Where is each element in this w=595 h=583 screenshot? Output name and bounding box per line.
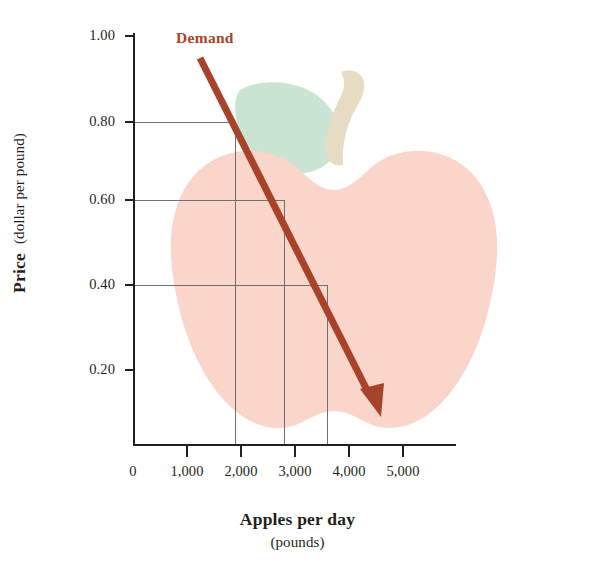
x-tick-label-5000: 5,000	[358, 463, 448, 480]
y-axis-title-subtitle: (dollar per pound)	[11, 133, 28, 244]
y-tick-label-100: 1.00	[55, 27, 115, 44]
demand-curve-figure: 1.00 0.80 0.60 0.40 0.20 0 1,000 2,000 3…	[0, 0, 595, 583]
x-axis-title: Apples per day (pounds)	[0, 508, 595, 552]
x-axis-title-main: Apples per day	[0, 508, 595, 532]
y-tick-label-080: 0.80	[55, 113, 115, 130]
x-axis-ticks	[187, 446, 403, 457]
x-axis-title-subtitle: (pounds)	[0, 532, 595, 552]
demand-curve-label: Demand	[176, 29, 234, 47]
y-axis-ticks	[125, 36, 134, 370]
y-axis-title: Price (dollar per pound)	[9, 133, 59, 293]
y-tick-label-060: 0.60	[55, 191, 115, 208]
y-tick-label-020: 0.20	[55, 361, 115, 378]
y-tick-label-040: 0.40	[55, 276, 115, 293]
y-axis-title-main: Price	[9, 253, 30, 293]
apple-illustration	[171, 70, 497, 428]
apple-stem-icon	[326, 70, 364, 165]
apple-body-shape	[171, 151, 497, 428]
